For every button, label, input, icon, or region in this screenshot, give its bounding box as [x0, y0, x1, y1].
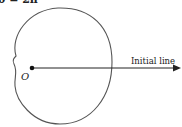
polar-diagram: θ = 2π O Initial line	[0, 0, 182, 127]
polar-curve	[13, 8, 112, 124]
initial-line-label: Initial line	[131, 56, 175, 66]
pole-label: O	[21, 71, 29, 82]
pole-point	[30, 66, 35, 71]
header-text: θ = 2π	[0, 0, 38, 6]
